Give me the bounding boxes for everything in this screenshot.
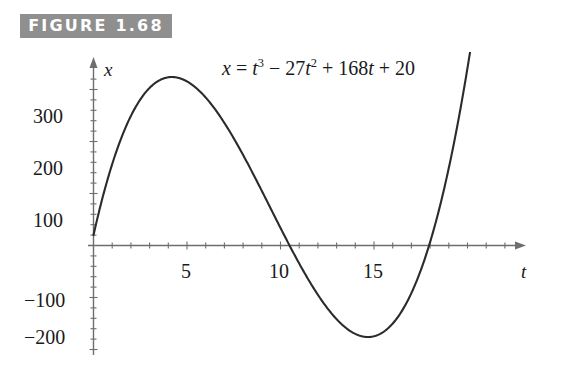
y-tick-label-minus-200: −200 [24, 327, 65, 347]
plot-canvas [0, 0, 564, 367]
x-tick-label-5: 5 [181, 261, 191, 281]
figure-banner-overlay: FIGURE 1.68 [20, 14, 172, 38]
x-axis-label: t [521, 262, 526, 281]
bottom-mask [0, 355, 564, 367]
figure-label-overlay: FIGURE 1.68 [28, 18, 164, 34]
x-axis [88, 242, 526, 250]
y-axis-arrowhead [90, 57, 98, 68]
x-tick-label-10: 10 [269, 261, 289, 281]
y-tick-label-100: 100 [33, 210, 63, 230]
x-tick-label-15: 15 [363, 261, 383, 281]
y-axis [90, 57, 98, 355]
x-axis-arrowhead [515, 242, 526, 250]
figure-page: FIGURE 1.68 x = t3 − 27t2 + 168t + 20 [0, 0, 564, 367]
y-tick-label-300: 300 [33, 106, 63, 126]
y-tick-label-200: 200 [33, 158, 63, 178]
y-tick-label-minus-100: −100 [24, 290, 65, 310]
y-axis-label: x [104, 60, 112, 79]
